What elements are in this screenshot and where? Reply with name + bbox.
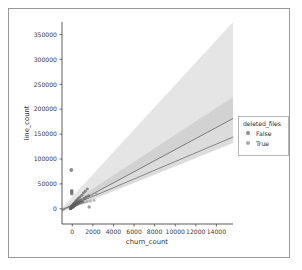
legend-label-true: True [256,140,269,147]
legend-marker-false [246,131,250,135]
legend-entry-false[interactable]: False [243,128,284,138]
y-tick-label: 100000 [34,155,57,162]
y-tick-label: 250000 [34,81,57,88]
y-tick-label: 300000 [34,56,57,63]
y-axis-tick-labels: 0 50000 100000 150000 200000 250000 3000… [34,31,57,212]
y-tick-label: 150000 [34,130,57,137]
x-tick-label: 12000 [186,228,206,235]
x-tick-label: 0 [70,228,74,235]
legend: deleted_files False True [238,116,289,156]
legend-entry-true[interactable]: True [243,138,284,148]
figure-canvas: 0 50000 100000 150000 200000 250000 3000… [0,0,302,270]
y-axis-title: line_count [23,105,31,140]
y-tick-label: 0 [53,205,57,212]
y-tick-label: 350000 [34,31,57,38]
x-tick-label: 10000 [166,228,186,235]
x-axis-title: churn_count [126,238,168,246]
x-tick-label: 6000 [126,228,142,235]
x-tick-label: 14000 [207,228,227,235]
legend-title: deleted_files [243,120,284,128]
x-tick-label: 8000 [147,228,163,235]
y-tick-label: 200000 [34,105,57,112]
legend-marker-true [246,141,250,145]
x-axis-tick-labels: 0 2000 4000 6000 8000 10000 12000 14000 [70,228,226,235]
x-tick-label: 2000 [85,228,101,235]
y-tick-label: 50000 [38,180,58,187]
confidence-bands [62,22,233,212]
x-tick-label: 4000 [106,228,122,235]
legend-label-false: False [256,130,272,137]
